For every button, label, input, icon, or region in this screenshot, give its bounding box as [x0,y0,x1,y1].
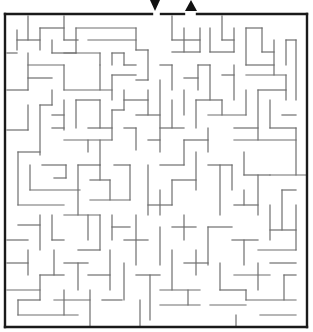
maze-walls [7,16,306,327]
maze-board [0,0,313,332]
arrow-up-icon [185,0,197,11]
arrow-down-icon [150,0,160,11]
maze-border [5,14,307,327]
